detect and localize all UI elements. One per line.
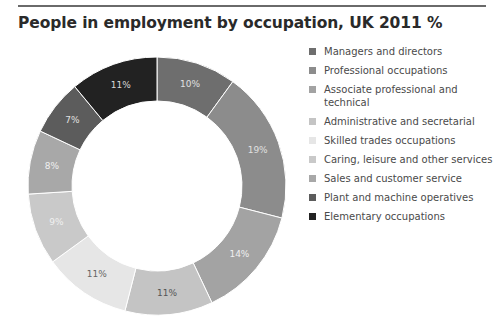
legend-item: Managers and directors	[309, 45, 494, 58]
legend-swatch-icon	[309, 194, 316, 201]
slice-label: 11%	[87, 269, 107, 279]
legend-item: Skilled trades occupations	[309, 134, 494, 147]
slice-label: 11%	[111, 80, 131, 90]
legend-swatch-icon	[309, 156, 316, 163]
legend-swatch-icon	[309, 213, 316, 220]
slice-label: 11%	[157, 288, 177, 298]
legend-label: Professional occupations	[324, 64, 448, 77]
legend-swatch-icon	[309, 175, 316, 182]
legend-item: Caring, leisure and other services	[309, 153, 494, 166]
slice-label: 19%	[248, 145, 268, 155]
legend-label: Associate professional and technical	[324, 83, 494, 109]
legend-item: Sales and customer service	[309, 172, 494, 185]
legend: Managers and directorsProfessional occup…	[309, 45, 494, 229]
donut-slice	[207, 82, 286, 218]
legend-item: Professional occupations	[309, 64, 494, 77]
donut-chart: 10%19%14%11%11%9%8%7%11%	[0, 0, 300, 328]
slice-label: 9%	[49, 217, 64, 227]
slice-label: 10%	[180, 79, 200, 89]
legend-swatch-icon	[309, 86, 316, 93]
legend-swatch-icon	[309, 118, 316, 125]
legend-label: Caring, leisure and other services	[324, 153, 492, 166]
legend-label: Plant and machine operatives	[324, 191, 473, 204]
legend-item: Associate professional and technical	[309, 83, 494, 109]
legend-label: Elementary occupations	[324, 210, 445, 223]
legend-item: Plant and machine operatives	[309, 191, 494, 204]
legend-item: Elementary occupations	[309, 210, 494, 223]
legend-label: Administrative and secretarial	[324, 115, 475, 128]
slice-label: 14%	[229, 249, 249, 259]
legend-label: Sales and customer service	[324, 172, 462, 185]
legend-item: Administrative and secretarial	[309, 115, 494, 128]
slice-label: 8%	[45, 161, 60, 171]
legend-swatch-icon	[309, 67, 316, 74]
slice-label: 7%	[65, 115, 80, 125]
legend-swatch-icon	[309, 137, 316, 144]
legend-label: Skilled trades occupations	[324, 134, 456, 147]
legend-swatch-icon	[309, 48, 316, 55]
legend-label: Managers and directors	[324, 45, 442, 58]
